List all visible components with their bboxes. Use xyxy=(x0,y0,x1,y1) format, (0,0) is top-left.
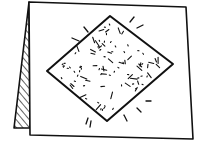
speckle xyxy=(61,78,62,79)
speckle xyxy=(104,108,105,109)
speckle xyxy=(77,75,78,76)
card-illustration: Card with sparkling diamond xyxy=(0,0,202,142)
speckle xyxy=(124,52,125,53)
speckle xyxy=(118,67,119,68)
speckle xyxy=(111,42,112,43)
speckle xyxy=(128,45,129,46)
speckle xyxy=(74,81,75,82)
card-drawing xyxy=(0,0,202,142)
speckle xyxy=(113,108,114,109)
speckle xyxy=(100,50,101,51)
speckle xyxy=(74,71,75,72)
speckle xyxy=(123,62,124,63)
speckle xyxy=(98,102,99,103)
speckle xyxy=(115,46,116,47)
card-fold-hatched xyxy=(14,2,30,128)
speckle xyxy=(125,60,126,64)
speckle xyxy=(70,67,71,68)
speckle xyxy=(75,53,76,54)
speckle xyxy=(86,98,87,99)
speckle xyxy=(109,24,110,25)
speckle xyxy=(62,64,63,65)
speckle xyxy=(142,64,143,65)
speckle xyxy=(142,84,143,85)
speckle xyxy=(99,69,100,70)
speckle xyxy=(143,53,144,54)
